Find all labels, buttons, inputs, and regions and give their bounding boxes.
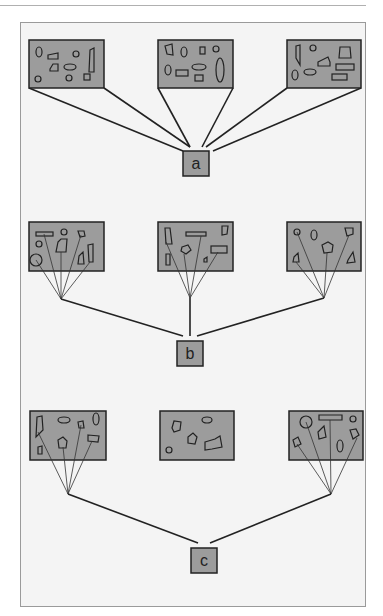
group-b [29,222,361,336]
diagram-canvas: .panel{fill:#9c9c9c;stroke:#222;stroke-w… [0,0,383,616]
label-b: b [186,345,195,362]
label-c: c [200,552,208,569]
group-a [29,40,361,151]
label-a: a [192,155,201,172]
group-c [30,411,363,543]
